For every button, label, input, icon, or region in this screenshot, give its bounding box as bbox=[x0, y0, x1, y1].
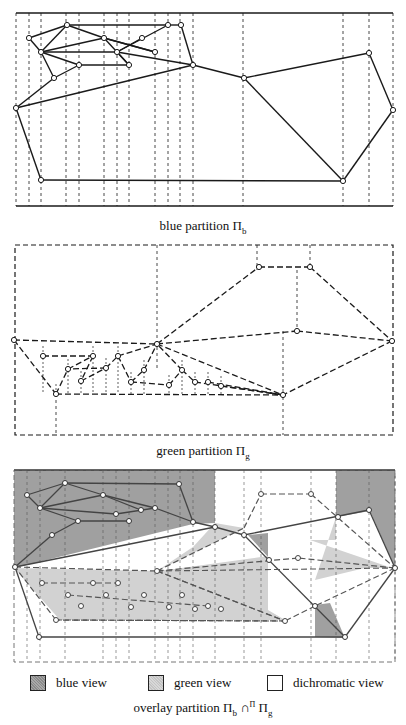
overlay-caption-op: ∩ bbox=[237, 700, 250, 715]
graph-vertex bbox=[336, 515, 341, 520]
graph-vertex bbox=[191, 520, 196, 525]
graph-vertex bbox=[218, 383, 223, 388]
overlay-partition-caption: overlay partition Πb ∩Π Πg bbox=[0, 700, 406, 718]
graph-vertex bbox=[367, 508, 372, 513]
graph-edge bbox=[157, 331, 297, 344]
graph-vertex bbox=[104, 593, 109, 598]
graph-vertex bbox=[366, 50, 371, 55]
graph-edge bbox=[244, 78, 343, 181]
graph-edge bbox=[16, 108, 41, 180]
graph-vertex bbox=[11, 337, 16, 342]
graph-vertex bbox=[139, 508, 144, 513]
legend-label-dichromatic: dichromatic view bbox=[293, 675, 384, 691]
blue-view-region bbox=[248, 533, 268, 557]
graph-vertex bbox=[65, 366, 70, 371]
graph-vertex bbox=[54, 618, 59, 623]
legend: blue view green view dichromatic view bbox=[0, 675, 406, 697]
green-view-swatch-icon bbox=[148, 675, 164, 691]
graph-vertex bbox=[152, 49, 157, 54]
graph-vertex bbox=[241, 75, 246, 80]
graph-vertex bbox=[38, 49, 43, 54]
graph-vertex bbox=[393, 566, 398, 571]
graph-edge bbox=[283, 341, 392, 395]
graph-vertex bbox=[307, 264, 312, 269]
graph-vertex bbox=[294, 328, 299, 333]
graph-vertex bbox=[280, 392, 285, 397]
blue-edge bbox=[345, 568, 395, 637]
dichromatic-view-swatch-icon bbox=[267, 675, 283, 691]
graph-vertex bbox=[53, 391, 58, 396]
graph-edge bbox=[343, 110, 393, 181]
blue-edge bbox=[244, 510, 369, 535]
graph-vertex bbox=[167, 605, 172, 610]
graph-vertex bbox=[50, 533, 55, 538]
graph-vertex bbox=[296, 556, 301, 561]
graph-vertex bbox=[283, 619, 288, 624]
graph-edge bbox=[181, 25, 193, 65]
graph-vertex bbox=[114, 49, 119, 54]
graph-vertex bbox=[193, 607, 198, 612]
graph-edge bbox=[68, 356, 93, 369]
graph-vertex bbox=[205, 379, 210, 384]
graph-vertex bbox=[91, 581, 96, 586]
graph-vertex bbox=[219, 607, 224, 612]
graph-edge bbox=[369, 53, 393, 110]
overlay-partition-panel bbox=[0, 465, 406, 670]
graph-edge bbox=[68, 368, 106, 369]
blue-partition-diagram bbox=[0, 0, 406, 215]
green-caption-text: green partition Π bbox=[156, 443, 245, 458]
graph-vertex bbox=[13, 565, 18, 570]
graph-vertex bbox=[179, 367, 184, 372]
graph-edge bbox=[118, 356, 131, 382]
graph-vertex bbox=[213, 525, 218, 530]
graph-edge bbox=[56, 369, 68, 394]
overlay-caption-sub2: g bbox=[268, 708, 273, 718]
graph-vertex bbox=[66, 593, 71, 598]
graph-vertex bbox=[139, 35, 144, 40]
graph-vertex bbox=[76, 519, 81, 524]
legend-item-green-view: green view bbox=[148, 675, 231, 691]
graph-vertex bbox=[166, 382, 171, 387]
graph-vertex bbox=[309, 492, 314, 497]
graph-edge bbox=[41, 180, 343, 181]
graph-vertex bbox=[40, 353, 45, 358]
graph-vertex bbox=[116, 581, 121, 586]
graph-edge bbox=[310, 267, 392, 341]
overlay-caption-post: Π bbox=[255, 700, 268, 715]
graph-vertex bbox=[101, 493, 106, 498]
graph-vertex bbox=[79, 604, 84, 609]
graph-vertex bbox=[340, 178, 345, 183]
graph-vertex bbox=[64, 22, 69, 27]
graph-vertex bbox=[26, 35, 31, 40]
graph-edge bbox=[118, 344, 157, 356]
graph-vertex bbox=[180, 593, 185, 598]
graph-vertex bbox=[25, 493, 30, 498]
graph-vertex bbox=[129, 605, 134, 610]
graph-vertex bbox=[389, 338, 394, 343]
graph-vertex bbox=[128, 379, 133, 384]
graph-vertex bbox=[177, 482, 182, 487]
graph-edge bbox=[104, 38, 155, 52]
graph-vertex bbox=[13, 105, 18, 110]
graph-vertex bbox=[206, 604, 211, 609]
graph-edge bbox=[193, 65, 244, 78]
graph-edge bbox=[131, 382, 169, 385]
graph-vertex bbox=[190, 62, 195, 67]
graph-vertex bbox=[259, 492, 264, 497]
graph-edge bbox=[56, 394, 283, 395]
graph-vertex bbox=[63, 481, 68, 486]
graph-vertex bbox=[101, 35, 106, 40]
graph-edge bbox=[14, 340, 157, 344]
graph-vertex bbox=[192, 379, 197, 384]
graph-vertex bbox=[256, 264, 261, 269]
green-partition-panel bbox=[0, 240, 406, 440]
graph-vertex bbox=[153, 506, 158, 511]
graph-vertex bbox=[38, 506, 43, 511]
legend-item-blue-view: blue view bbox=[30, 675, 107, 691]
graph-vertex bbox=[390, 107, 395, 112]
graph-edge bbox=[14, 340, 56, 394]
graph-vertex bbox=[267, 558, 272, 563]
graph-edge bbox=[67, 25, 104, 38]
graph-vertex bbox=[37, 635, 42, 640]
graph-vertex bbox=[165, 22, 170, 27]
